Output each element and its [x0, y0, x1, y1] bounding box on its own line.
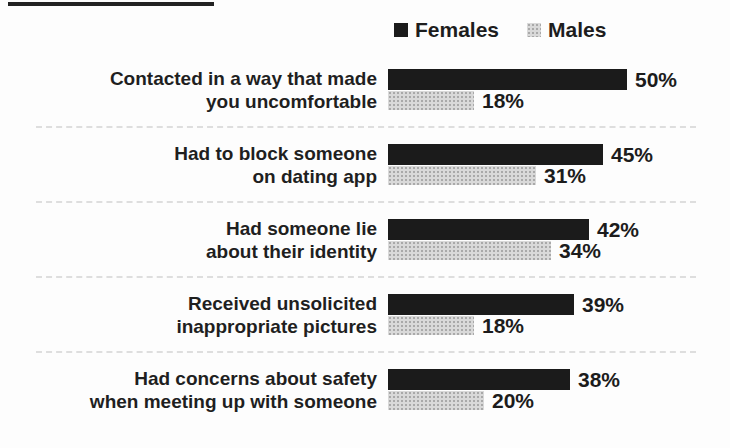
cropped-line-artifact — [8, 2, 214, 6]
chart-row: Had concerns about safetywhen meeting up… — [0, 356, 730, 424]
males-bar-line: 20% — [388, 390, 730, 411]
females-value-label: 38% — [578, 369, 620, 390]
bar-group: 38%20% — [388, 369, 730, 411]
females-value-label: 39% — [582, 294, 624, 315]
females-value-label: 42% — [597, 219, 639, 240]
category-label: Had someone lieabout their identity — [0, 217, 388, 263]
category-label: Contacted in a way that madeyou uncomfor… — [0, 67, 388, 113]
legend-label-males: Males — [548, 18, 606, 42]
males-bar-line: 18% — [388, 315, 730, 336]
females-bar-line: 42% — [388, 219, 730, 240]
females-value-label: 45% — [611, 144, 653, 165]
females-bar-line: 50% — [388, 69, 730, 90]
males-bar — [388, 391, 484, 410]
category-label: Received unsolicitedinappropriate pictur… — [0, 292, 388, 338]
females-bar-line: 45% — [388, 144, 730, 165]
legend-item-females: Females — [394, 18, 499, 42]
males-value-label: 20% — [492, 390, 534, 411]
males-swatch-icon — [527, 23, 541, 37]
males-bar — [388, 316, 474, 335]
bar-group: 42%34% — [388, 219, 730, 261]
males-bar — [388, 166, 536, 185]
grouped-bar-chart: Females Males Contacted in a way that ma… — [0, 0, 730, 448]
bar-group: 45%31% — [388, 144, 730, 186]
row-divider — [36, 201, 696, 203]
males-bar-line: 18% — [388, 90, 730, 111]
males-value-label: 18% — [482, 315, 524, 336]
bar-group: 50%18% — [388, 69, 730, 111]
females-bar — [388, 294, 574, 315]
females-bar — [388, 219, 589, 240]
chart-row: Had someone lieabout their identity42%34… — [0, 206, 730, 274]
males-bar — [388, 91, 474, 110]
chart-row: Contacted in a way that madeyou uncomfor… — [0, 56, 730, 124]
males-bar-line: 34% — [388, 240, 730, 261]
females-bar — [388, 69, 627, 90]
females-bar — [388, 369, 570, 390]
males-bar — [388, 241, 551, 260]
females-bar-line: 38% — [388, 369, 730, 390]
chart-row: Received unsolicitedinappropriate pictur… — [0, 281, 730, 349]
legend-item-males: Males — [527, 18, 606, 42]
bar-rows: Contacted in a way that madeyou uncomfor… — [0, 56, 730, 424]
legend: Females Males — [394, 18, 606, 42]
legend-label-females: Females — [415, 18, 499, 42]
females-bar-line: 39% — [388, 294, 730, 315]
females-swatch-icon — [394, 23, 408, 37]
category-label: Had concerns about safetywhen meeting up… — [0, 367, 388, 413]
row-divider — [36, 276, 696, 278]
bar-group: 39%18% — [388, 294, 730, 336]
males-value-label: 31% — [544, 165, 586, 186]
category-label: Had to block someoneon dating app — [0, 142, 388, 188]
females-bar — [388, 144, 603, 165]
males-bar-line: 31% — [388, 165, 730, 186]
chart-row: Had to block someoneon dating app45%31% — [0, 131, 730, 199]
row-divider — [36, 126, 696, 128]
row-divider — [36, 351, 696, 353]
males-value-label: 18% — [482, 90, 524, 111]
males-value-label: 34% — [559, 240, 601, 261]
females-value-label: 50% — [635, 69, 677, 90]
